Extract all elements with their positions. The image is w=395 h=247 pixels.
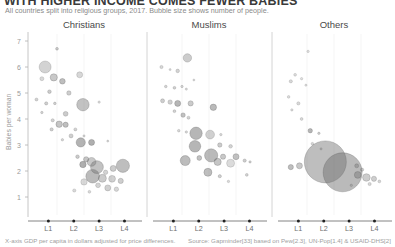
bubble [84, 157, 89, 162]
bubble [116, 159, 129, 172]
bubble [61, 139, 63, 141]
bubble [189, 141, 201, 153]
bubble [300, 118, 303, 121]
bubble [214, 158, 221, 165]
bubble [109, 175, 116, 182]
bubble [69, 134, 73, 138]
bubble [206, 130, 215, 139]
bubble [50, 74, 57, 81]
bubble [173, 86, 176, 89]
bubble [88, 190, 91, 193]
x-tick-1-l3: L3 [216, 225, 232, 233]
bubble [45, 102, 48, 105]
bubble [181, 113, 185, 117]
y-tick-1: 1 [5, 194, 21, 201]
bubble [48, 90, 52, 94]
bubble [220, 154, 225, 159]
bubble [105, 185, 111, 191]
bubble [81, 179, 87, 185]
bubble [98, 174, 106, 182]
bubble [183, 54, 191, 62]
bubble [63, 122, 68, 127]
bubble [243, 159, 246, 162]
x-tick-1-l2: L2 [191, 225, 207, 233]
x-tick-2-l1: L1 [290, 225, 306, 233]
x-tick-1-l1: L1 [165, 225, 181, 233]
y-tick-5: 5 [5, 90, 21, 97]
bubble [311, 142, 314, 145]
y-tick-6: 6 [5, 64, 21, 71]
panel-title-others: Others [280, 19, 388, 31]
bubble [56, 121, 62, 127]
bubble [249, 161, 251, 163]
bubble [227, 159, 235, 167]
bubble [378, 180, 381, 183]
bubble [77, 99, 89, 111]
bubble [229, 145, 233, 149]
bubble [74, 128, 77, 131]
bubble [287, 96, 290, 99]
bubble [187, 116, 190, 119]
bubble [110, 165, 116, 171]
bubble [63, 111, 68, 116]
source-note: Source: Gapminder[33] based on Pew[2.3],… [188, 237, 391, 245]
x-tick-2-l3: L3 [341, 225, 357, 233]
bubble [73, 189, 76, 192]
bubble [188, 101, 193, 106]
bubble [67, 91, 71, 95]
x-axis-note: X-axis GDP per capita in dollars adjuste… [5, 237, 175, 245]
bubble [245, 174, 248, 177]
x-tick-1-l4: L4 [242, 225, 258, 233]
bubble [40, 77, 44, 81]
bubble [307, 50, 309, 52]
x-tick-0-l2: L2 [66, 225, 82, 233]
bubble [227, 180, 229, 182]
bubble [83, 135, 85, 137]
bubble [368, 182, 371, 185]
bubble [35, 98, 38, 101]
panel-title-christians: Christians [30, 19, 138, 31]
bubble [89, 139, 95, 145]
bubble [118, 178, 123, 183]
bubble [107, 140, 109, 142]
bubble [204, 168, 212, 176]
y-tick-4: 4 [5, 116, 21, 123]
bubble [160, 65, 163, 68]
panel-title-muslims: Muslims [155, 19, 263, 31]
bubble [96, 183, 101, 188]
y-tick-7: 7 [5, 38, 21, 45]
bubble [320, 148, 322, 150]
bubble [98, 101, 100, 103]
bubble [318, 132, 320, 134]
bubble [218, 175, 221, 178]
bubble [291, 109, 293, 111]
bubble [210, 104, 216, 110]
y-tick-3: 3 [5, 142, 21, 149]
bubble-group-christians [35, 47, 130, 193]
bubble [60, 79, 66, 85]
bubble-group-muslims [160, 54, 251, 183]
bubble [197, 156, 202, 161]
bubble [165, 85, 168, 88]
bubble [350, 184, 352, 186]
bubble [56, 47, 59, 50]
bubble [185, 131, 187, 133]
bubble [300, 78, 302, 80]
bubble [360, 168, 363, 171]
bubble [76, 138, 85, 147]
bubble [41, 111, 43, 113]
bubble [190, 127, 202, 139]
bubble [289, 80, 292, 83]
x-tick-2-l2: L2 [316, 225, 332, 233]
bubble [175, 100, 181, 106]
bubble [114, 187, 118, 191]
x-tick-2-l4: L4 [367, 225, 383, 233]
bubble [233, 154, 239, 160]
bubble [296, 163, 302, 169]
bubble [218, 143, 222, 147]
bubble [39, 61, 51, 73]
bubble [176, 69, 180, 73]
bubble [76, 155, 80, 159]
bubble [181, 85, 183, 87]
bubble [288, 165, 293, 170]
